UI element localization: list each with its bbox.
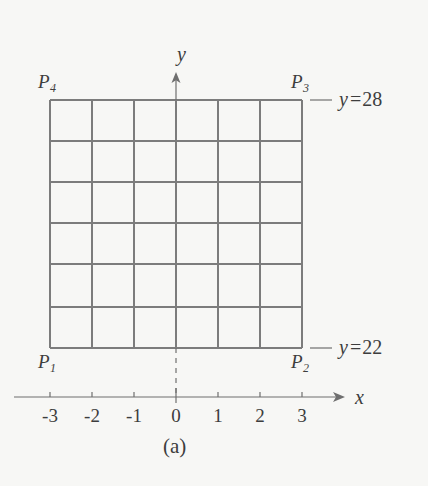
annotation-y-22-variable: y [339, 336, 348, 358]
point-label-p3-base: P [291, 71, 303, 92]
annotation-y-22-equals: = [350, 336, 361, 358]
x-tick-label--3: -3 [35, 406, 65, 425]
point-label-p4-subscript: 4 [50, 81, 56, 95]
x-tick-label-1: 1 [203, 406, 233, 425]
figure-caption: (a) [163, 436, 186, 457]
y-axis [172, 72, 181, 100]
y-axis-label: y [177, 44, 186, 64]
annotation-y-28-variable: y [339, 88, 348, 110]
annotation-y-28: y=28 [339, 89, 382, 109]
point-label-p2: P2 [291, 352, 309, 374]
x-tick-label-3: 3 [287, 406, 317, 425]
point-label-p2-subscript: 2 [303, 361, 309, 375]
point-label-p4: P4 [38, 72, 56, 94]
figure-container: P4 P3 P1 P2 y=28 y=22 y x -3 -2 -1 0 1 2… [0, 0, 428, 486]
point-label-p2-base: P [291, 351, 303, 372]
point-label-p1: P1 [38, 352, 56, 374]
annotation-y-22-value: 22 [362, 336, 382, 358]
annotation-y-22: y=22 [339, 337, 382, 357]
x-tick-label--1: -1 [119, 406, 149, 425]
point-label-p3-subscript: 3 [303, 81, 309, 95]
x-tick-label--2: -2 [77, 406, 107, 425]
point-label-p1-subscript: 1 [50, 361, 56, 375]
leader-lines [310, 100, 332, 348]
point-label-p3: P3 [291, 72, 309, 94]
annotation-y-28-equals: = [350, 88, 361, 110]
x-tick-label-2: 2 [245, 406, 275, 425]
x-axis-label: x [355, 387, 364, 407]
annotation-y-28-value: 28 [362, 88, 382, 110]
grid [50, 100, 302, 348]
point-label-p1-base: P [38, 351, 50, 372]
point-label-p4-base: P [38, 71, 50, 92]
x-axis [14, 388, 345, 403]
x-tick-label-0: 0 [161, 406, 191, 425]
